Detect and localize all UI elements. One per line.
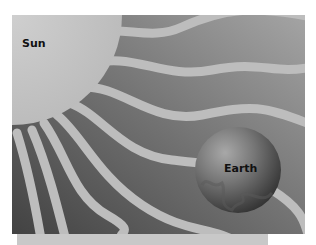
bottom-strip <box>17 234 268 245</box>
sun-earth-diagram: Sun Earth <box>12 15 305 234</box>
earth-label: Earth <box>224 162 257 175</box>
sun-label: Sun <box>22 37 46 50</box>
diagram-canvas <box>12 15 305 234</box>
